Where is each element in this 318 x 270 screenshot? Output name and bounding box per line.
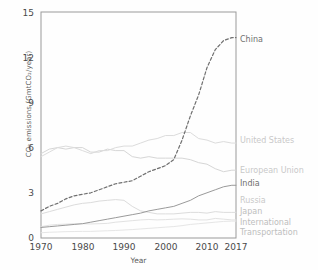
series-label-united-states: United States [240,136,294,145]
plot-frame [41,12,236,238]
series-label-japan: Japan [240,207,262,216]
series-label-russia: Russia [240,196,266,205]
series-label-china: China [240,35,263,44]
series-label-international-transportation-line2: Transportation [240,228,298,237]
series-label-india: India [240,179,260,188]
series-line-united-states [41,133,236,157]
series-line-european-union [41,148,236,172]
series-line-china [41,38,236,211]
series-line-international-transportation [41,221,236,233]
series-line-russia [41,200,236,214]
series-label-international-transportation-line1: International [240,218,291,227]
series-lines [41,38,236,233]
series-label-european-union: European Union [240,166,304,175]
chart-figure: CO₂ emissions (GmtCO₂/year) Year 15 12 9… [0,0,318,270]
